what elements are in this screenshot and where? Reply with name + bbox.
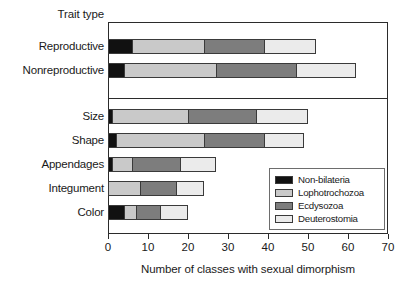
bar-segment-ecdysozoa [140,181,176,196]
x-axis-tick-label: 60 [333,241,363,253]
x-axis-tick [108,234,109,239]
legend-label: Non-bilateria [298,174,350,185]
legend-label: Ecdysozoa [298,200,343,211]
x-axis-tick-label: 0 [93,241,123,253]
bar-segment-lophotrochozoa [132,39,204,54]
bar-segment-deuterostomia [296,63,356,78]
bar-reproductive[interactable] [108,39,316,54]
bar-segment-ecdysozoa [216,63,296,78]
bar-segment-ecdysozoa [136,205,160,220]
x-axis-tick [388,234,389,239]
bar-segment-lophotrochozoa [124,63,216,78]
bar-segment-deuterostomia [264,39,316,54]
category-label-integument: Integument [0,182,104,194]
legend-item-ecdysozoa[interactable]: Ecdysozoa [275,199,380,212]
x-axis-title: Number of classes with sexual dimorphism [108,263,388,275]
category-label-reproductive: Reproductive [0,40,104,52]
x-axis-tick [228,234,229,239]
x-axis-tick-label: 70 [373,241,403,253]
bar-integument[interactable] [108,181,204,196]
bar-segment-lophotrochozoa [108,181,140,196]
x-axis-tick [148,234,149,239]
chart-figure: Trait type ReproductiveNonreproductiveSi… [0,0,419,289]
bar-segment-ecdysozoa [188,109,256,124]
group-divider [108,98,388,99]
x-axis-tick-label: 40 [253,241,283,253]
y-axis-title: Trait type [0,8,104,20]
bar-size[interactable] [108,109,308,124]
category-label-size: Size [0,110,104,122]
legend-label: Lophotrochozoa [298,187,364,198]
bar-segment-non-bilateria [108,63,124,78]
x-axis-tick-label: 20 [173,241,203,253]
bar-segment-ecdysozoa [204,39,264,54]
x-axis-tick-label: 10 [133,241,163,253]
bar-segment-lophotrochozoa [112,157,132,172]
legend-label: Deuterostomia [298,213,358,224]
bar-segment-ecdysozoa [132,157,180,172]
x-axis-tick [188,234,189,239]
x-axis-tick-label: 50 [293,241,323,253]
bar-segment-lophotrochozoa [116,133,204,148]
legend-item-lophotrochozoa[interactable]: Lophotrochozoa [275,186,380,199]
bar-segment-deuterostomia [176,181,204,196]
category-label-nonreproductive: Nonreproductive [0,64,104,76]
chart-legend: Non-bilateriaLophotrochozoaEcdysozoaDeut… [269,168,385,230]
x-axis-tick [308,234,309,239]
legend-swatch-icon [275,189,293,197]
bar-segment-lophotrochozoa [112,109,188,124]
category-label-shape: Shape [0,134,104,146]
bar-segment-non-bilateria [108,133,116,148]
bar-segment-non-bilateria [108,205,124,220]
bar-segment-deuterostomia [160,205,188,220]
bar-segment-non-bilateria [108,39,132,54]
x-axis-tick-label: 30 [213,241,243,253]
legend-item-non-bilateria[interactable]: Non-bilateria [275,173,380,186]
bar-segment-deuterostomia [256,109,308,124]
bar-segment-lophotrochozoa [124,205,136,220]
legend-swatch-icon [275,215,293,223]
bar-segment-ecdysozoa [204,133,264,148]
bar-shape[interactable] [108,133,304,148]
bar-nonreproductive[interactable] [108,63,356,78]
category-label-appendages: Appendages [0,158,104,170]
category-label-color: Color [0,206,104,218]
legend-swatch-icon [275,176,293,184]
bar-appendages[interactable] [108,157,216,172]
bar-segment-deuterostomia [180,157,216,172]
x-axis-tick [268,234,269,239]
legend-item-deuterostomia[interactable]: Deuterostomia [275,212,380,225]
bar-segment-deuterostomia [264,133,304,148]
x-axis-tick [348,234,349,239]
bar-color[interactable] [108,205,188,220]
legend-swatch-icon [275,202,293,210]
